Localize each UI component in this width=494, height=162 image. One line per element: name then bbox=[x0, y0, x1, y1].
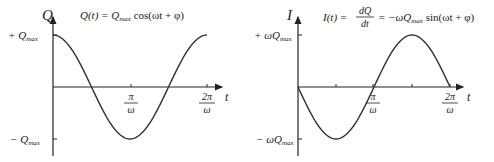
svg-text:ω: ω bbox=[203, 104, 210, 115]
svg-text:dQ: dQ bbox=[359, 5, 372, 16]
x-axis-label: t bbox=[225, 90, 229, 104]
xtick-pi: π ω bbox=[366, 91, 380, 115]
svg-text:ω: ω bbox=[369, 104, 376, 115]
svg-text:ω: ω bbox=[446, 104, 453, 115]
charge-plot: Q t Q(t) = Qmax cos(ωt + φ) + Qmax − Qma… bbox=[8, 7, 229, 156]
svg-text:2π: 2π bbox=[202, 91, 213, 102]
xtick-2pi: 2π ω bbox=[199, 91, 215, 115]
svg-text:I(t) =: I(t) = bbox=[322, 11, 347, 24]
svg-text:dt: dt bbox=[361, 18, 369, 29]
xtick-2pi: 2π ω bbox=[442, 91, 458, 115]
ytick-pos: + ωQmax bbox=[254, 29, 292, 43]
ytick-neg: − Qmax bbox=[10, 133, 41, 147]
svg-text:2π: 2π bbox=[445, 91, 456, 102]
ytick-pos: + Qmax bbox=[8, 29, 39, 43]
equation: Q(t) = Qmax cos(ωt + φ) bbox=[80, 9, 184, 23]
y-axis-label: Q bbox=[42, 7, 53, 23]
equation: I(t) = dQ dt = −ωQmax sin(ωt + φ) bbox=[322, 5, 475, 29]
svg-text:= −ωQmax sin(ωt + φ): = −ωQmax sin(ωt + φ) bbox=[378, 11, 475, 25]
charts-canvas: Q t Q(t) = Qmax cos(ωt + φ) + Qmax − Qma… bbox=[0, 0, 494, 162]
xtick-pi: π ω bbox=[124, 91, 138, 115]
y-axis-label: I bbox=[286, 7, 293, 23]
x-axis-label: t bbox=[467, 90, 471, 104]
svg-text:ω: ω bbox=[127, 104, 134, 115]
current-plot: I t I(t) = dQ dt = −ωQmax sin(ωt + φ) + … bbox=[254, 5, 475, 156]
svg-text:π: π bbox=[128, 91, 134, 102]
svg-text:π: π bbox=[370, 91, 376, 102]
ytick-neg: − ωQmax bbox=[256, 133, 294, 147]
